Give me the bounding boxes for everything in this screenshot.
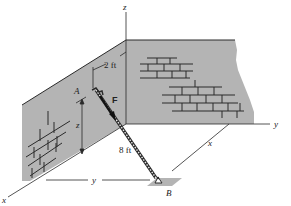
offset-label: 2 ft: [104, 60, 117, 70]
x-axis-label: x: [1, 195, 6, 205]
ladder-wall-diagram: z y x x 2 ft A z F 8 ft y B: [0, 0, 291, 206]
z-axis-label: z: [122, 2, 127, 12]
x-axis-right: [172, 124, 229, 171]
y-distance-label: y: [91, 175, 96, 185]
force-label: F: [112, 95, 118, 105]
support-b: [147, 177, 182, 186]
height-label: z: [75, 120, 80, 130]
point-a-label: A: [73, 86, 80, 96]
y-axis-label: y: [273, 119, 278, 129]
x-distance-label: x: [207, 138, 212, 148]
back-wall: [126, 40, 254, 124]
point-b-label: B: [166, 188, 172, 198]
ladder-length-label: 8 ft: [119, 145, 132, 155]
